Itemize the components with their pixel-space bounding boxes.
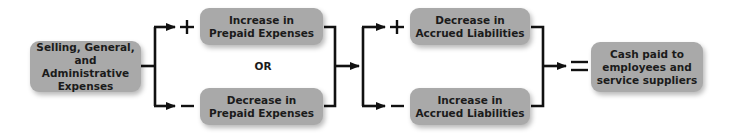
plus-sign-1	[180, 20, 194, 34]
decrease-accrued-label: Decrease in Accrued Liabilities	[415, 14, 524, 40]
or-separator: OR	[248, 60, 278, 72]
prepaid-bracket	[324, 27, 335, 106]
accrued-bracket	[531, 27, 543, 106]
plus-sign-2	[390, 20, 404, 34]
box-decrease-prepaid: Decrease in Prepaid Expenses	[200, 88, 323, 125]
box-decrease-accrued: Decrease in Accrued Liabilities	[410, 8, 530, 45]
source-box-label: Selling, General, and Administrative Exp…	[34, 41, 137, 93]
result-box-cash-paid: Cash paid to employees and service suppl…	[591, 42, 703, 92]
increase-prepaid-label: Increase in Prepaid Expenses	[209, 14, 314, 40]
box-increase-accrued: Increase in Accrued Liabilities	[410, 88, 530, 125]
decrease-prepaid-label: Decrease in Prepaid Expenses	[209, 94, 314, 120]
increase-accrued-label: Increase in Accrued Liabilities	[415, 94, 524, 120]
source-box-sga-expenses: Selling, General, and Administrative Exp…	[30, 41, 141, 92]
result-box-label: Cash paid to employees and service suppl…	[597, 48, 698, 87]
equals-sign	[571, 62, 588, 70]
box-increase-prepaid: Increase in Prepaid Expenses	[200, 8, 323, 45]
